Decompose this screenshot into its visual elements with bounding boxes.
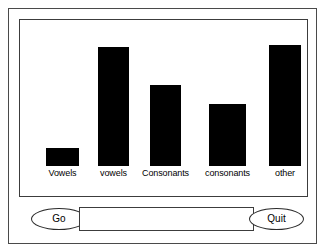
chart-panel: VowelsvowelsConsonantsconsonantsother bbox=[19, 19, 308, 197]
chart-bar bbox=[269, 45, 301, 166]
bar-chart-plot-area: VowelsvowelsConsonantsconsonantsother bbox=[20, 20, 307, 196]
bar-group: consonants bbox=[209, 20, 246, 166]
chart-bar bbox=[46, 148, 79, 166]
bar-category-label: vowels bbox=[100, 168, 127, 179]
outer-frame: VowelsvowelsConsonantsconsonantsother Go… bbox=[8, 8, 317, 244]
bar-group: other bbox=[269, 20, 301, 166]
bar-category-label: Consonants bbox=[142, 168, 189, 179]
bar-category-label: consonants bbox=[205, 168, 250, 179]
chart-bar bbox=[209, 104, 246, 166]
chart-bar bbox=[98, 47, 129, 166]
search-input[interactable] bbox=[79, 207, 254, 231]
bar-group: Consonants bbox=[150, 20, 181, 166]
chart-bar bbox=[150, 85, 181, 166]
bar-group: Vowels bbox=[46, 20, 79, 166]
control-bar: Go Quit bbox=[19, 201, 308, 243]
bar-group: vowels bbox=[98, 20, 129, 166]
applet-window: VowelsvowelsConsonantsconsonantsother Go… bbox=[0, 0, 326, 252]
quit-button[interactable]: Quit bbox=[249, 208, 304, 230]
bar-category-label: other bbox=[275, 168, 295, 179]
bar-category-label: Vowels bbox=[49, 168, 77, 179]
